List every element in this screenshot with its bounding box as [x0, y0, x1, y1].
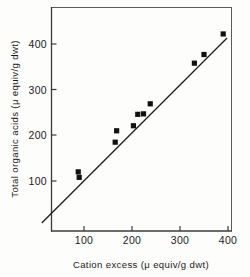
y-tick-label-400: 400 [29, 38, 47, 50]
x-tick-label-400: 400 [219, 234, 237, 246]
y-axis-title: Total organic acids (μ equiv/g dwt) [9, 40, 20, 198]
data-point [131, 123, 136, 128]
plot-frame [51, 8, 232, 232]
data-point [148, 101, 153, 106]
y-tick-label-100: 100 [29, 175, 47, 187]
data-point [76, 169, 81, 174]
data-point [113, 140, 118, 145]
y-tick-label-200: 200 [29, 129, 47, 141]
data-point [77, 175, 82, 180]
x-tick-label-100: 100 [75, 234, 93, 246]
axis-lines [51, 7, 232, 232]
data-point [135, 112, 140, 117]
data-point [114, 128, 119, 133]
scatter-plot: 400 300 200 100 100 200 300 400 Cation e… [0, 0, 250, 277]
regression-line [42, 38, 227, 223]
data-point-group [76, 31, 226, 180]
data-point [221, 31, 226, 36]
x-tick-label-300: 300 [171, 234, 189, 246]
y-axis-ticks [52, 44, 57, 181]
x-tick-label-200: 200 [123, 234, 141, 246]
data-point [141, 111, 146, 116]
data-point [192, 61, 197, 66]
x-axis-title: Cation excess (μ equiv/g dwt) [73, 259, 209, 270]
y-tick-label-300: 300 [29, 84, 47, 96]
x-axis-ticks [84, 226, 228, 231]
figure-container: 400 300 200 100 100 200 300 400 Cation e… [0, 0, 250, 277]
y-tick-labels: 400 300 200 100 [29, 38, 47, 187]
data-point [201, 52, 206, 57]
x-tick-labels: 100 200 300 400 [75, 234, 237, 246]
